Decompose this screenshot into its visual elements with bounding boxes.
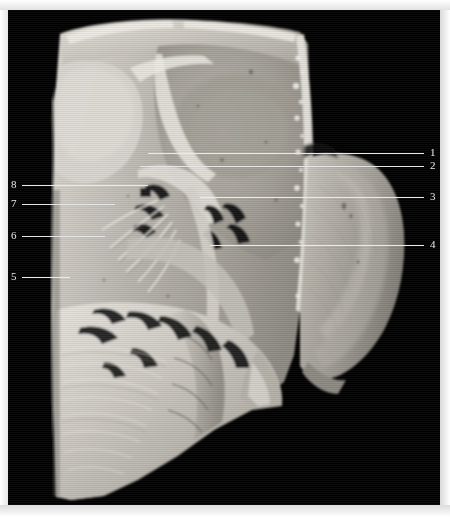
label-number-1: 1 xyxy=(430,147,436,158)
plate-margin-top xyxy=(0,0,450,10)
leader-line-6 xyxy=(22,236,105,237)
leader-line-1 xyxy=(148,153,424,154)
plate-margin-left xyxy=(0,10,8,505)
fossa-shadow-inner xyxy=(192,90,288,170)
leader-line-5 xyxy=(22,277,70,278)
label-number-5: 5 xyxy=(11,271,17,282)
plate-margin-bottom xyxy=(0,505,450,517)
anatomical-plate: 12345678 xyxy=(0,0,450,517)
leader-line-2 xyxy=(140,166,424,167)
label-number-6: 6 xyxy=(11,230,17,241)
specimen-illustration xyxy=(8,10,440,505)
leader-line-8 xyxy=(22,185,148,186)
photograph-field: 12345678 xyxy=(8,10,440,505)
leader-line-7 xyxy=(22,204,115,205)
label-number-8: 8 xyxy=(11,179,17,190)
vignette-left xyxy=(8,10,52,505)
label-number-3: 3 xyxy=(430,191,436,202)
label-number-4: 4 xyxy=(430,239,436,250)
leader-line-4 xyxy=(210,245,424,246)
leader-line-3 xyxy=(200,197,424,198)
label-number-2: 2 xyxy=(430,160,436,171)
label-number-7: 7 xyxy=(11,198,17,209)
specimen-photograph xyxy=(8,10,440,505)
plate-margin-right xyxy=(440,10,450,505)
